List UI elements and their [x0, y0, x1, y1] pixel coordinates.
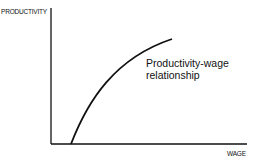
annotation-line-1: Productivity-wage [146, 57, 229, 69]
x-axis-label: WAGE [227, 150, 246, 157]
annotation-line-2: relationship [146, 69, 229, 81]
productivity-wage-curve [71, 39, 172, 144]
curve-annotation: Productivity-wage relationship [146, 57, 229, 81]
y-axis-label: PRODUCTIVITY [1, 8, 47, 15]
chart-canvas [0, 0, 264, 163]
